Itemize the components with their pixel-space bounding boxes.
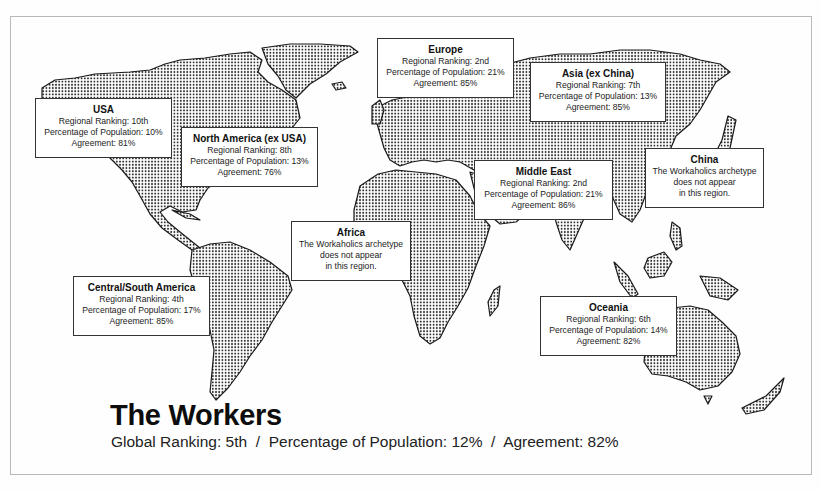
philippines-landmass — [670, 222, 682, 250]
new-zealand-landmass — [742, 378, 784, 414]
region-percentage: Percentage of Population: 21% — [475, 189, 612, 200]
region-title: Europe — [378, 43, 513, 56]
region-agreement: Agreement: 86% — [475, 200, 612, 211]
region-title: China — [646, 153, 763, 166]
region-note-line2: does not appear — [292, 250, 410, 261]
borneo-landmass — [644, 252, 672, 278]
region-title: Asia (ex China) — [531, 67, 665, 80]
global-summary: Global Ranking: 5th / Percentage of Popu… — [111, 433, 619, 451]
global-percentage: Percentage of Population: 12% — [269, 433, 483, 450]
global-ranking: Global Ranking: 5th — [111, 433, 247, 450]
region-title: Central/South America — [74, 281, 209, 294]
madagascar-landmass — [488, 286, 500, 316]
region-title: USA — [36, 103, 171, 116]
region-agreement: Agreement: 85% — [378, 78, 513, 89]
region-note-line1: The Workaholics archetype — [646, 166, 763, 177]
region-title: Africa — [292, 226, 410, 239]
region-ranking: Regional Ranking: 10th — [36, 116, 171, 127]
region-ranking: Regional Ranking: 2nd — [475, 178, 612, 189]
region-box-central-south-america: Central/South America Regional Ranking: … — [73, 276, 210, 336]
region-box-asia: Asia (ex China) Regional Ranking: 7th Pe… — [530, 62, 666, 122]
region-percentage: Percentage of Population: 14% — [541, 325, 676, 336]
sumatra-landmass — [614, 262, 638, 298]
region-percentage: Percentage of Population: 13% — [531, 91, 665, 102]
region-ranking: Regional Ranking: 7th — [531, 80, 665, 91]
region-percentage: Percentage of Population: 13% — [182, 156, 317, 167]
region-note-line1: The Workaholics archetype — [292, 239, 410, 250]
global-agreement: Agreement: 82% — [503, 433, 618, 450]
region-title: Middle East — [475, 165, 612, 178]
region-percentage: Percentage of Population: 10% — [36, 127, 171, 138]
page-title: The Workers — [110, 399, 282, 432]
region-ranking: Regional Ranking: 4th — [74, 294, 209, 305]
region-agreement: Agreement: 82% — [541, 336, 676, 347]
region-ranking: Regional Ranking: 2nd — [378, 56, 513, 67]
region-box-europe: Europe Regional Ranking: 2nd Percentage … — [377, 38, 514, 98]
region-box-china: China The Workaholics archetype does not… — [645, 148, 764, 208]
tasmania-landmass — [704, 396, 712, 404]
region-agreement: Agreement: 81% — [36, 138, 171, 149]
region-agreement: Agreement: 85% — [531, 102, 665, 113]
region-agreement: Agreement: 85% — [74, 316, 209, 327]
region-title: North America (ex USA) — [182, 132, 317, 145]
region-note-line2: does not appear — [646, 177, 763, 188]
iceland-landmass — [332, 82, 346, 90]
region-note-line3: in this region. — [646, 188, 763, 199]
region-box-middle-east: Middle East Regional Ranking: 2nd Percen… — [474, 160, 613, 220]
region-percentage: Percentage of Population: 17% — [74, 305, 209, 316]
region-percentage: Percentage of Population: 21% — [378, 67, 513, 78]
region-box-oceania: Oceania Regional Ranking: 6th Percentage… — [540, 296, 677, 356]
region-box-usa: USA Regional Ranking: 10th Percentage of… — [35, 98, 172, 158]
separator: / — [491, 433, 495, 450]
region-box-africa: Africa The Workaholics archetype does no… — [291, 221, 411, 281]
region-agreement: Agreement: 76% — [182, 167, 317, 178]
region-title: Oceania — [541, 301, 676, 314]
region-ranking: Regional Ranking: 6th — [541, 314, 676, 325]
new-guinea-landmass — [700, 276, 738, 300]
region-note-line3: in this region. — [292, 261, 410, 272]
region-box-north-america: North America (ex USA) Regional Ranking:… — [181, 127, 318, 187]
region-ranking: Regional Ranking: 8th — [182, 145, 317, 156]
separator: / — [256, 433, 260, 450]
